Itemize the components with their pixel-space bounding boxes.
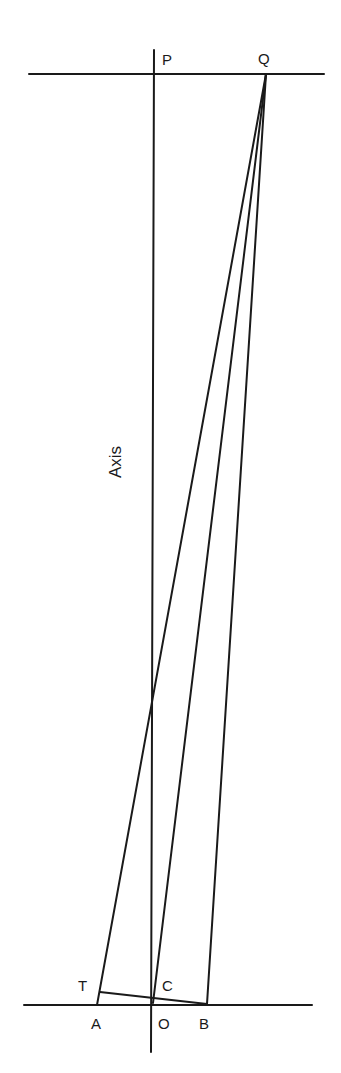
line-Q-B <box>207 74 266 1004</box>
label-Q: Q <box>258 51 270 66</box>
line-Q-C <box>153 74 266 1003</box>
label-O: O <box>158 1016 170 1031</box>
label-P: P <box>162 52 172 67</box>
axis-line <box>151 50 154 1052</box>
label-B: B <box>199 1016 209 1031</box>
label-axis: Axis <box>106 446 126 478</box>
label-C: C <box>162 978 173 993</box>
label-T: T <box>78 978 87 993</box>
line-Q-A <box>97 74 266 1005</box>
label-A: A <box>91 1016 101 1031</box>
diagram-canvas <box>0 0 341 1073</box>
